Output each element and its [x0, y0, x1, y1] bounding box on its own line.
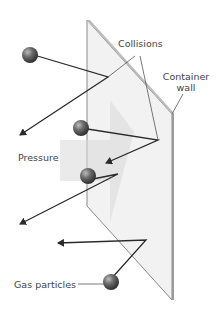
collisions-label: Collisions [118, 38, 163, 49]
gas-particle-2 [73, 120, 89, 136]
container-wall-label-line1: Container [161, 71, 211, 82]
gas-particle-4 [103, 274, 119, 290]
gas-particle-1 [22, 47, 38, 63]
gas-particles-label: Gas particles [14, 279, 76, 290]
container-wall-label-line2: wall [161, 82, 211, 93]
wall-callout-line [172, 94, 183, 114]
container-wall-label: Container wall [161, 71, 211, 93]
pressure-label: Pressure [18, 152, 59, 163]
gas-particle-3 [80, 168, 96, 184]
